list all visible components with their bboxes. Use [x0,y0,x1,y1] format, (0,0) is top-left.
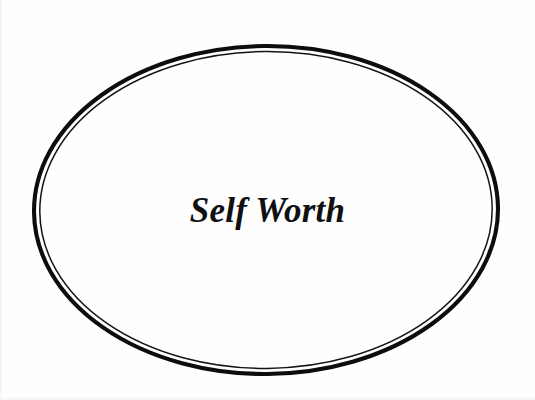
ellipse-label-self-worth: Self Worth [0,190,535,232]
diagram-canvas: Self Worth [0,0,535,400]
